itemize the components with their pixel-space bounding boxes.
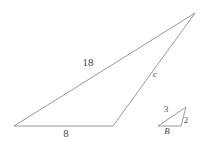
side-label-c: c: [153, 70, 157, 79]
side-label-18: 18: [83, 57, 94, 68]
side-label-3: 3: [164, 105, 169, 114]
side-label-8: 8: [63, 128, 69, 139]
small-triangle: [158, 107, 186, 126]
figure-canvas: [0, 0, 201, 145]
side-label-2: 2: [184, 116, 189, 125]
vertex-label-B: B: [164, 127, 170, 136]
geometry-figure: 18 8 c 3 2 B: [0, 0, 201, 145]
